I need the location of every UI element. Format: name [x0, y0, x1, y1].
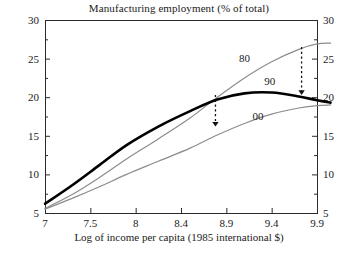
x-axis-tick-label: 8.9 — [219, 217, 233, 229]
x-axis-label: Log of income per capita (1985 internati… — [0, 231, 358, 243]
y-axis-tick-label-right: 15 — [323, 130, 335, 142]
y-axis-tick-label-right: 25 — [323, 53, 335, 65]
curve-label-00: 00 — [253, 110, 265, 122]
x-axis-tick-label: 7 — [42, 217, 48, 229]
x-axis-tick-label: 8 — [133, 217, 139, 229]
x-axis-tick-label: 9.4 — [265, 217, 279, 229]
x-axis-tick-label: 9.9 — [310, 217, 324, 229]
arrow-90-to-00-head — [212, 122, 218, 127]
y-axis-tick-label: 5 — [34, 207, 40, 219]
y-axis-tick-label: 15 — [28, 130, 40, 142]
arrow-80-to-90-head — [298, 90, 304, 95]
chart-plot-area: 551010151520202525303077.588.48.99.49.98… — [0, 0, 358, 255]
plot-frame — [46, 21, 318, 214]
x-axis-tick-label: 7.5 — [83, 217, 97, 229]
chart-container: Manufacturing employment (% of total) 55… — [0, 0, 358, 255]
y-axis-tick-label-right: 10 — [323, 168, 335, 180]
curve-series-00 — [45, 105, 331, 209]
y-axis-tick-label-right: 5 — [323, 207, 329, 219]
y-axis-tick-label: 30 — [28, 14, 40, 26]
y-axis-tick-label: 10 — [28, 168, 40, 180]
y-axis-tick-label-right: 30 — [323, 14, 335, 26]
curve-label-80: 80 — [239, 52, 251, 64]
x-axis-tick-label: 8.4 — [174, 217, 188, 229]
y-axis-tick-label: 20 — [28, 91, 40, 103]
y-axis-tick-label: 25 — [28, 53, 40, 65]
curve-series-90 — [45, 92, 331, 203]
curve-label-90: 90 — [264, 75, 276, 87]
curve-series-80 — [45, 43, 331, 208]
